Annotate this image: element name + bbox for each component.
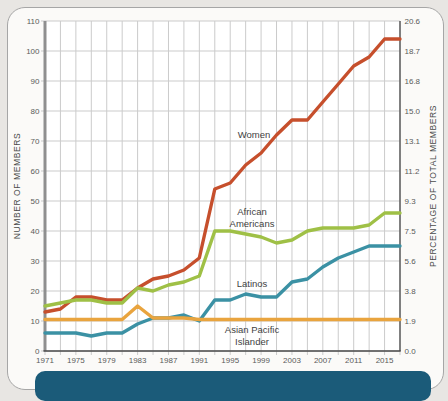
y-right-tick-label: 0.0 [405,347,417,356]
x-tick-label: 2011 [345,356,363,365]
left-axis-title: NUMBER OF MEMBERS [12,21,22,351]
y-right-tick-label: 15.0 [405,107,421,116]
asian-pacific-islander-series-label: Asian Pacific Islander [225,324,279,348]
caption-bar [35,371,431,401]
y-left-tick-label: 90 [31,77,40,86]
y-left-tick-label: 40 [31,227,40,236]
x-tick-label: 1979 [98,356,116,365]
y-right-tick-label: 11.2 [405,167,421,176]
y-left-tick-label: 50 [31,197,40,206]
y-left-tick-label: 80 [31,107,40,116]
women-series-label: Women [238,129,271,141]
x-tick-label: 2015 [376,356,394,365]
y-right-tick-label: 7.5 [405,227,417,236]
y-left-tick-label: 110 [27,17,40,26]
x-tick-label: 1991 [190,356,208,365]
y-right-tick-label: 9.3 [405,197,417,206]
y-left-tick-label: 100 [26,47,40,56]
x-tick-label: 1975 [67,356,85,365]
african-americans-series-label: African Americans [230,206,275,230]
y-right-tick-label: 20.6 [405,17,421,26]
y-left-tick-label: 60 [31,167,40,176]
y-right-tick-label: 13.1 [405,137,421,146]
x-tick-label: 1983 [129,356,147,365]
y-left-tick-label: 0 [35,347,40,356]
x-tick-label: 1995 [221,356,239,365]
x-tick-label: 1999 [252,356,270,365]
right-axis-title: PERCENTAGE OF TOTAL MEMBERS [428,21,438,351]
x-tick-label: 1971 [36,356,54,365]
y-left-tick-label: 30 [31,257,40,266]
latinos-series-label: Latinos [237,278,268,290]
y-right-tick-label: 1.9 [405,317,417,326]
y-left-tick-label: 20 [31,287,40,296]
y-right-tick-label: 3.8 [405,287,417,296]
x-tick-label: 1987 [160,356,178,365]
y-left-tick-label: 70 [31,137,40,146]
y-right-tick-label: 5.6 [405,257,417,266]
x-tick-label: 2007 [314,356,332,365]
x-tick-label: 2003 [283,356,301,365]
y-left-tick-label: 10 [31,317,40,326]
y-right-tick-label: 18.7 [405,47,421,56]
y-right-tick-label: 16.8 [405,77,421,86]
